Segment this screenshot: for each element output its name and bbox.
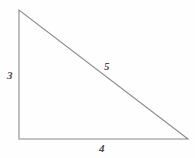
triangle-outline xyxy=(19,10,188,139)
side-label-vertical-leg: 3 xyxy=(7,70,13,81)
right-triangle-figure: 3 4 5 xyxy=(0,0,195,158)
side-label-horizontal-leg: 4 xyxy=(99,143,105,154)
triangle-drawing xyxy=(0,0,195,158)
side-label-hypotenuse: 5 xyxy=(104,61,110,72)
